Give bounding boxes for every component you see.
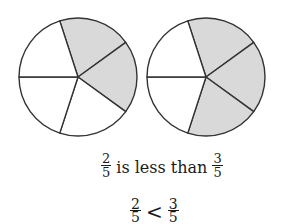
denominator: 5	[102, 166, 110, 179]
fraction-two-fifths: 2 5	[130, 198, 141, 224]
fraction-three-fifths: 3 5	[212, 153, 222, 179]
statement-sentence: 2 5 is less than 3 5	[101, 152, 223, 180]
fraction-two-fifths: 2 5	[101, 153, 111, 179]
comparison-text: is less than	[111, 156, 212, 177]
denominator: 5	[131, 211, 140, 224]
two-fifths-pie	[19, 18, 137, 136]
inequality-expression: 2 5 < 3 5	[130, 196, 179, 224]
fraction-pies	[0, 0, 282, 150]
fraction-three-fifths: 3 5	[168, 198, 179, 224]
denominator: 5	[169, 211, 178, 224]
denominator: 5	[213, 166, 221, 179]
less-than-symbol: <	[141, 200, 168, 224]
three-fifths-pie	[147, 18, 265, 136]
